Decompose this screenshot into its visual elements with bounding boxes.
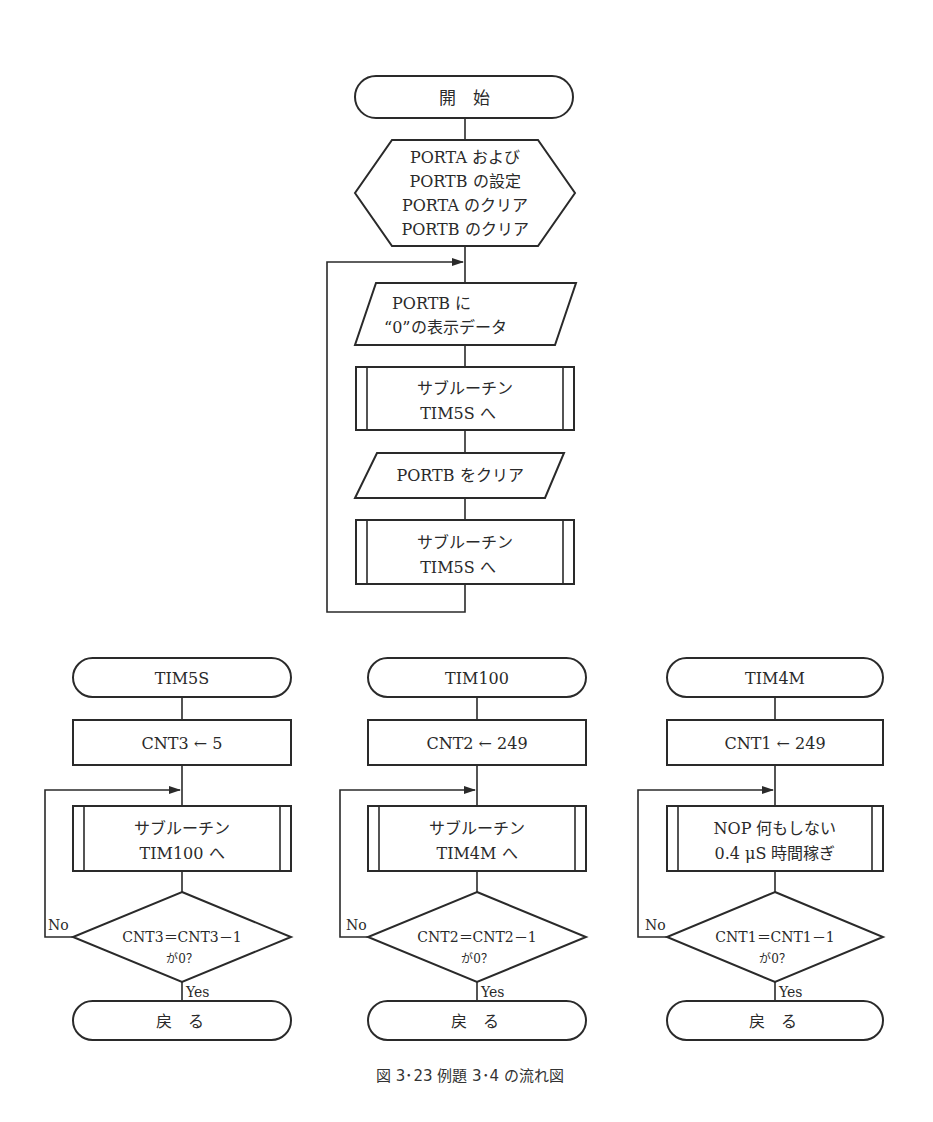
tim100-no-label: No [346,917,367,933]
tim100-sub-line-1: サブルーチン [429,819,525,838]
tim4m-yes-label: Yes [778,984,803,1000]
tim100-decision-line-2: が0？ [461,951,493,966]
flowchart-figure: 開 始 PORTA および PORTB の設定 PORTA のクリア PORTB… [0,0,933,1122]
tim4m-decision-line-2: が0？ [759,951,791,966]
figure-caption: 図 3･23 例題 3･4 の流れ図 [376,1067,564,1085]
tim4m-decision-line-1: CNT1＝CNT1－1 [715,929,834,945]
output1-line-2: “0”の表示データ [384,318,507,337]
tim4m-title: TIM4M [745,669,805,688]
tim4m-init-label: CNT1 ← 249 [724,734,825,753]
output1-line-1: PORTB に [392,294,471,313]
tim5s-return-label: 戻 る [156,1012,204,1031]
tim100-decision-line-1: CNT2＝CNT2－1 [417,929,536,945]
tim4m-no-label: No [645,917,666,933]
tim4m-return-label: 戻 る [749,1012,797,1031]
sub2-line-1: サブルーチン [417,533,513,552]
sub1-line-1: サブルーチン [417,379,513,398]
tim100-init-label: CNT2 ← 249 [426,734,527,753]
setup-line-3: PORTA のクリア [402,196,528,215]
start-label: 開 始 [439,88,490,108]
setup-line-4: PORTB のクリア [401,220,528,239]
setup-line-2: PORTB の設定 [409,172,520,191]
tim100-title: TIM100 [445,669,509,688]
tim100-flowchart: TIM100 CNT2 ← 249 サブルーチン TIM4M へ CNT2＝CN… [340,658,586,1040]
tim4m-flowchart: TIM4M CNT1 ← 249 NOP 何もしない 0.4 μS 時間稼ぎ C… [638,658,883,1040]
sub1-line-2: TIM5S へ [420,404,496,423]
tim5s-init-label: CNT3 ← 5 [142,734,223,753]
setup-line-1: PORTA および [410,148,520,167]
tim100-sub-line-2: TIM4M へ [436,844,517,863]
tim5s-yes-label: Yes [185,984,210,1000]
sub2-line-2: TIM5S へ [420,558,496,577]
tim4m-sub-line-1: NOP 何もしない [714,819,837,838]
tim4m-sub-line-2: 0.4 μS 時間稼ぎ [715,844,836,863]
main-flowchart: 開 始 PORTA および PORTB の設定 PORTA のクリア PORTB… [327,76,576,612]
tim5s-decision-line-2: が0？ [166,951,198,966]
tim5s-title: TIM5S [155,669,210,688]
tim5s-sub-line-1: サブルーチン [134,819,230,838]
tim5s-sub-line-2: TIM100 へ [140,844,225,863]
tim100-yes-label: Yes [480,984,505,1000]
tim100-return-label: 戻 る [451,1012,499,1031]
tim5s-no-label: No [48,917,69,933]
tim5s-flowchart: TIM5S CNT3 ← 5 サブルーチン TIM100 へ CNT3＝CNT3… [45,658,291,1040]
output2-label: PORTB をクリア [396,466,523,485]
tim5s-decision-line-1: CNT3＝CNT3－1 [122,929,241,945]
